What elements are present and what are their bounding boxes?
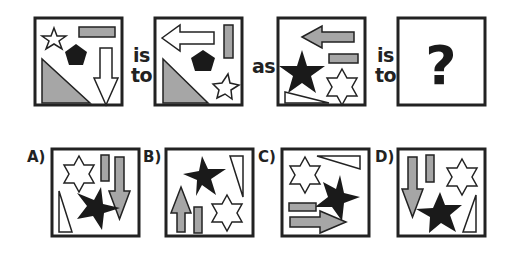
option-c[interactable] <box>280 147 371 238</box>
connector-as: as <box>252 55 275 77</box>
gray-rectangle <box>79 27 115 37</box>
option-b-label: B) <box>143 148 161 166</box>
answer-box: ? <box>396 16 487 107</box>
gray-rectangle <box>101 155 109 181</box>
question-mark: ? <box>425 34 456 97</box>
option-c-label: C) <box>258 148 276 166</box>
gray-rectangle <box>224 25 233 58</box>
connector-is-2: is <box>377 44 394 66</box>
gray-rectangle <box>289 203 316 211</box>
analogy-box-2 <box>153 16 244 107</box>
option-d-label: D) <box>375 148 394 166</box>
gray-rectangle <box>194 207 202 233</box>
option-d[interactable] <box>396 147 487 238</box>
analogy-box-1 <box>33 16 124 107</box>
option-a[interactable] <box>50 147 141 238</box>
option-b[interactable] <box>164 147 255 238</box>
analogy-box-3 <box>276 16 367 107</box>
connector-to-2: to <box>375 64 396 86</box>
connector-to-1: to <box>131 64 152 86</box>
gray-rectangle <box>426 155 434 182</box>
option-a-label: A) <box>27 148 45 166</box>
connector-is-1: is <box>133 44 150 66</box>
gray-rectangle <box>329 54 358 63</box>
